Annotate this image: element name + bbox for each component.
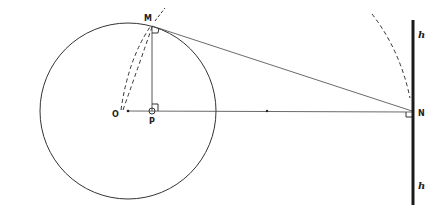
dashed-arc-inner	[121, 27, 150, 110]
geometry-diagram: O M P N h h	[0, 0, 447, 218]
label-P: P	[149, 117, 155, 126]
right-angle-N	[406, 112, 412, 117]
label-h-top: h	[418, 29, 425, 40]
label-O: O	[112, 110, 119, 119]
midpoint-dot	[266, 110, 268, 112]
label-h-bottom: h	[418, 180, 425, 191]
dashed-arc-N	[372, 14, 410, 98]
line-ON	[128, 111, 412, 112]
label-N: N	[418, 109, 425, 118]
label-M: M	[144, 14, 152, 23]
dashed-extension-M	[155, 8, 165, 21]
dashed-arc-outer	[123, 27, 152, 110]
point-O-dot	[127, 110, 130, 113]
tangent-line-MN	[152, 26, 412, 111]
